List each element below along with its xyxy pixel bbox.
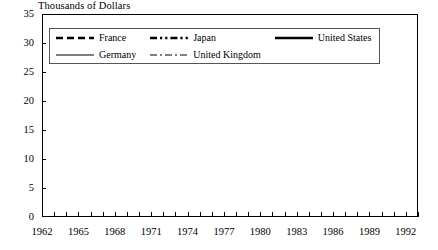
x-tick-mark (333, 212, 334, 217)
x-tick-mark (345, 212, 346, 217)
x-tick-label: 1986 (313, 227, 353, 238)
legend-sample-cell (50, 46, 95, 63)
x-tick-mark (127, 212, 128, 217)
x-tick-mark (200, 212, 201, 217)
legend-line-sample (274, 33, 314, 43)
x-tick-label: 1983 (277, 227, 317, 238)
x-tick-mark (139, 212, 140, 217)
legend-label-japan: Japan (189, 29, 269, 46)
x-tick-label: 1977 (204, 227, 244, 238)
x-tick-mark (418, 212, 419, 217)
x-tick-mark (272, 212, 273, 217)
y-tick-mark (42, 130, 46, 131)
x-tick-mark (406, 212, 407, 217)
x-tick-mark (115, 212, 116, 217)
x-tick-mark (224, 212, 225, 217)
y-tick-label: 35 (12, 9, 34, 20)
x-tick-mark (103, 212, 104, 217)
legend-row: FranceJapanUnited States (50, 29, 379, 46)
legend-line-sample (55, 33, 95, 43)
x-tick-mark (42, 212, 43, 217)
legend-sample-cell (50, 29, 95, 46)
x-tick-label: 1989 (349, 227, 389, 238)
x-tick-label: 1968 (95, 227, 135, 238)
x-tick-mark (163, 212, 164, 217)
x-tick-label: 1974 (168, 227, 208, 238)
y-tick-label: 10 (12, 154, 34, 165)
x-tick-mark (236, 212, 237, 217)
y-tick-label: 5 (12, 183, 34, 194)
chart-root: Thousands of Dollars 05101520253035 1962… (0, 0, 438, 250)
y-tick-mark (42, 101, 46, 102)
x-tick-label: 1980 (240, 227, 280, 238)
legend-sample-cell (144, 29, 189, 46)
x-tick-mark (297, 212, 298, 217)
y-tick-mark (42, 159, 46, 160)
x-tick-mark (321, 212, 322, 217)
legend-label-germany: Germany (95, 46, 144, 63)
legend-table: FranceJapanUnited StatesGermanyUnited Ki… (50, 29, 379, 63)
chart-axis-title: Thousands of Dollars (38, 0, 130, 11)
x-tick-mark (188, 212, 189, 217)
x-tick-mark (394, 212, 395, 217)
legend-row: GermanyUnited Kingdom (50, 46, 379, 63)
legend-label-france: France (95, 29, 144, 46)
y-tick-label: 15 (12, 125, 34, 136)
x-tick-label: 1971 (131, 227, 171, 238)
legend-line-sample (55, 50, 95, 60)
y-tick-label: 25 (12, 67, 34, 78)
legend-label-united-kingdom: United Kingdom (189, 46, 269, 63)
y-tick-label: 30 (12, 38, 34, 49)
x-tick-label: 1965 (58, 227, 98, 238)
y-tick-mark (42, 72, 46, 73)
x-tick-mark (248, 212, 249, 217)
x-tick-mark (369, 212, 370, 217)
y-tick-label: 20 (12, 96, 34, 107)
y-tick-label: 0 (12, 212, 34, 223)
legend-spacer (269, 46, 380, 63)
y-tick-mark (42, 43, 46, 44)
legend-line-sample (149, 50, 189, 60)
x-tick-mark (78, 212, 79, 217)
x-tick-mark (309, 212, 310, 217)
y-tick-mark (42, 188, 46, 189)
chart-legend: FranceJapanUnited StatesGermanyUnited Ki… (49, 28, 380, 64)
x-tick-label: 1992 (386, 227, 426, 238)
x-tick-mark (175, 212, 176, 217)
legend-sample-cell (144, 46, 189, 63)
x-tick-label: 1962 (22, 227, 62, 238)
x-tick-mark (357, 212, 358, 217)
x-tick-mark (382, 212, 383, 217)
legend-sample-cell (269, 29, 314, 46)
x-tick-mark (66, 212, 67, 217)
legend-label-united-states: United States (314, 29, 380, 46)
x-tick-mark (260, 212, 261, 217)
x-tick-mark (212, 212, 213, 217)
legend-line-sample (149, 33, 189, 43)
x-tick-mark (151, 212, 152, 217)
x-tick-mark (91, 212, 92, 217)
x-tick-mark (54, 212, 55, 217)
x-tick-mark (285, 212, 286, 217)
